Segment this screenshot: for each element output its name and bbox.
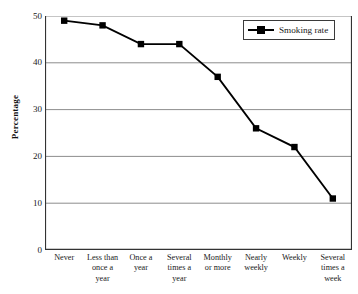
x-tick-label: Several times a year <box>160 253 198 294</box>
axis-spines <box>45 16 352 250</box>
legend-marker-icon <box>248 25 274 35</box>
y-tick-label: 40 <box>22 58 42 67</box>
data-point-marker <box>61 17 67 23</box>
y-tick-label: 50 <box>22 12 42 21</box>
data-point-marker <box>99 22 105 28</box>
x-tick-label: Weekly <box>275 253 313 294</box>
x-tick-label: Never <box>45 253 83 294</box>
y-axis-tick-labels: 01020304050 <box>18 0 42 294</box>
y-tick-label: 20 <box>22 152 42 161</box>
data-point-marker <box>330 195 336 201</box>
chart-figure: Percentage 01020304050 NeverLess than on… <box>0 0 358 294</box>
data-point-marker <box>253 125 259 131</box>
x-tick-label: Once a year <box>122 253 160 294</box>
chart-legend: Smoking rate <box>243 20 335 40</box>
data-point-marker <box>176 41 182 47</box>
y-tick-label: 0 <box>22 246 42 255</box>
y-tick-label: 10 <box>22 199 42 208</box>
gridlines <box>45 16 352 203</box>
plot-area <box>45 16 352 250</box>
legend-label-smoking-rate: Smoking rate <box>279 25 328 35</box>
x-tick-label: Less than once a year <box>83 253 121 294</box>
x-tick-label: Monthly or more <box>199 253 237 294</box>
data-point-marker <box>138 41 144 47</box>
data-point-marker <box>214 74 220 80</box>
data-point-marker <box>291 144 297 150</box>
y-tick-label: 30 <box>22 105 42 114</box>
x-tick-label: Several times a week <box>314 253 352 294</box>
x-tick-label: Nearly weekly <box>237 253 275 294</box>
x-axis-tick-labels: NeverLess than once a yearOnce a yearSev… <box>45 253 352 294</box>
